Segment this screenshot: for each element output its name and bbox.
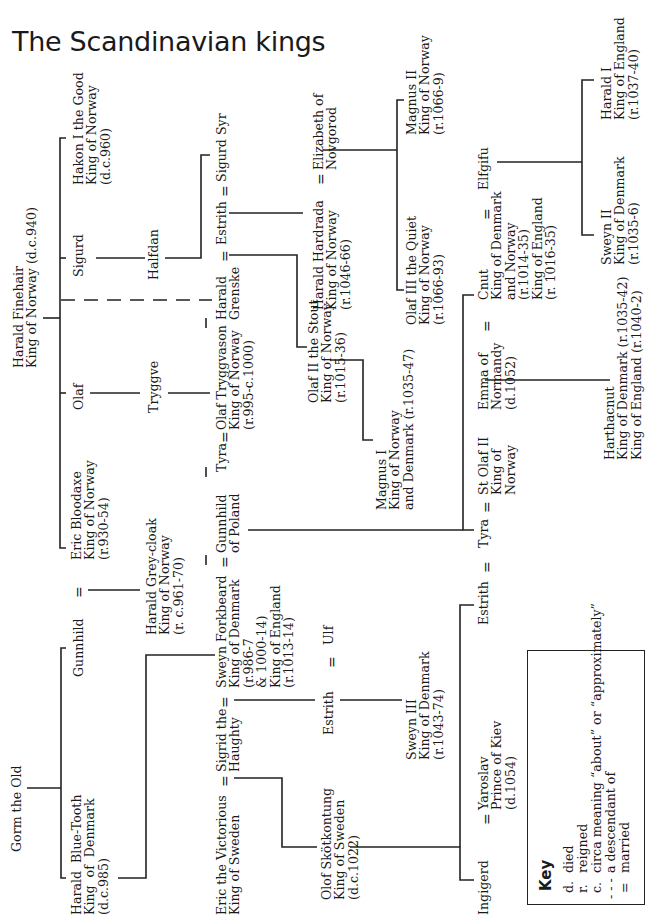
person-harthacnut: Harthacnut King of Denmark (r.1035-42) K… [603,277,643,460]
person-gunnhild-of-poland: Gunnhild of Poland [215,493,242,553]
married-symbol: = [480,320,494,332]
person-tyra-2: Tyra [477,519,490,548]
legend-meaning: a descendant of [604,772,617,873]
person-sigurd: Sigurd [72,234,85,277]
person-sweyn-iii: Sweyn III King of Denmark (r.1043-74) [405,651,445,760]
person-harald-hardrada: Harald Hardrada King of Norway (r.1046-6… [312,200,352,310]
legend-key: Key d. died r. reigned c. circa meaning … [527,650,645,905]
person-gorm-the-old: Gorm the Old [10,765,23,852]
person-estrith-3: Estrith [477,581,490,625]
married-symbol: = [480,561,494,573]
person-sigurd-syr: Sigurd Syr [215,113,228,182]
legend-symbol: d. [562,881,575,893]
legend-meaning: circa meaning “about” or “approximately” [590,603,603,873]
legend-symbol: - - - [604,878,617,899]
person-magnus-ii: Magnus II King of Norway (r.1066-9) [405,35,445,135]
person-hakon-the-good: Hakon I the Good King of Norway (d.c.960… [72,72,112,185]
legend-symbol: c. [590,882,603,893]
married-symbol: = [218,185,232,197]
person-harald-greycloak: Harald Grey-cloak King of Norway (r. c.9… [145,518,185,635]
person-tyra: Tyra [215,443,228,472]
married-symbol: = [218,696,232,708]
person-harald-grenske: Harald Grenske [215,267,242,320]
married-symbol: = [480,501,494,513]
person-tryggve: Tryggve [147,361,160,413]
person-yaroslav: Yaroslav Prince of Kiev (d.1054) [477,721,517,810]
married-symbol: = [218,250,232,262]
person-harald-bluetooth: Harald Blue-Tooth King of Denmark (d.c.9… [70,794,110,915]
person-harald-finehair: Harald Finehair King of Norway (d.c.940) [12,207,39,368]
married-symbol: = [314,173,328,185]
person-elfgifu: Elfgifu [477,147,490,190]
person-halfdan: Halfdan [147,229,160,280]
person-sweyn-forkbeard: Sweyn Forkbeard King of Denmark (r.986-7… [215,576,295,688]
legend-symbol: = [618,882,631,893]
person-eric-bloodaxe: Eric Bloodaxe King of Norway (r.930-54) [70,460,110,560]
person-olaf-the-quiet: Olaf III the Quiet King of Norway (r.106… [405,216,445,325]
married-symbol: = [325,656,339,668]
legend-symbol: r. [576,884,589,893]
person-st-olaf-ii: St Olaf II King of Norway [477,437,517,495]
person-sigrid-the-haughty: Sigrid the Haughty [215,709,242,772]
person-harald-i: Harald I King of England (r.1037-40) [600,17,640,120]
person-magnus-i: Magnus I King of Norway and Denmark (r.1… [375,349,415,510]
legend-meaning: reigned [576,824,589,873]
person-ingigerd: Ingigerd [477,860,490,915]
person-olaf: Olaf [72,383,85,410]
married-symbol: = [480,813,494,825]
married-symbol: = [72,586,86,598]
person-olof-skotkonung: Olof Skötkontung King of Sweden (d.c.102… [320,788,360,900]
person-estrith: Estrith [215,201,228,245]
person-emma-of-normandy: Emma of Normandy (d.1052) [477,343,517,410]
legend-meaning: died [562,845,575,873]
married-symbol: = [218,556,232,568]
person-olaf-tryggvason: Olaf Tryggvason King of Norway (r.995-c.… [215,325,255,430]
person-ulf: Ulf [322,626,335,645]
married-symbol: = [218,431,232,443]
person-estrith-2: Estrith [322,691,335,735]
person-sweyn-ii: Sweyn II King of Denmark (r.1035-6) [600,156,640,265]
person-olaf-the-stout: Olaf II the Stout King of Norway (r.1015… [307,299,347,403]
married-symbol: = [218,775,232,787]
person-elizabeth-of-novgorod: Elizabeth of Novgorod [312,94,339,170]
legend-title: Key [540,860,553,891]
married-symbol: = [480,208,494,220]
person-gunnhild: Gunnhild [72,618,85,677]
person-eric-the-victorious: Eric the Victorious King of Sweden [215,795,242,915]
legend-meaning: married [618,822,631,873]
